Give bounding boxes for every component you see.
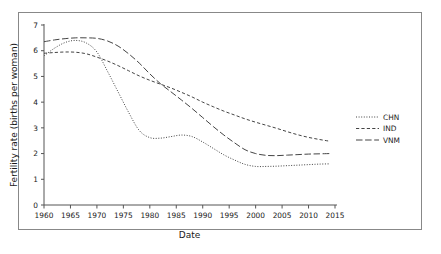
x-tick-label: 1970 (88, 211, 107, 220)
legend-label-chn: CHN (383, 113, 399, 122)
y-tick-label: 0 (33, 201, 38, 210)
x-tick-label: 1980 (140, 211, 159, 220)
series-line-ind (44, 52, 330, 141)
x-tick-label: 2010 (299, 211, 318, 220)
chart-legend: CHNINDVNM (356, 113, 400, 145)
x-tick-label: 1985 (167, 211, 186, 220)
x-tick-label: 1975 (114, 211, 133, 220)
axes: 0123456719601965197019751980198519901995… (33, 21, 344, 220)
y-tick-label: 5 (33, 72, 38, 81)
x-tick-label: 1995 (220, 211, 239, 220)
x-tick-label: 1960 (35, 211, 54, 220)
y-tick-label: 6 (33, 46, 38, 55)
legend-label-vnm: VNM (383, 136, 400, 145)
series-lines (44, 38, 330, 167)
series-line-chn (44, 40, 330, 166)
y-axis-title: Fertility rate (births per woman) (9, 43, 19, 187)
x-tick-label: 2015 (326, 211, 345, 220)
x-axis-title: Date (179, 230, 201, 240)
series-line-vnm (44, 38, 330, 156)
y-tick-label: 2 (33, 149, 38, 158)
y-tick-label: 1 (33, 175, 38, 184)
y-tick-label: 4 (33, 98, 38, 107)
x-tick-label: 2000 (246, 211, 265, 220)
x-tick-label: 1990 (193, 211, 212, 220)
line-chart: 0123456719601965197019751980198519901995… (0, 0, 441, 254)
y-tick-label: 3 (33, 124, 38, 133)
x-tick-label: 2005 (273, 211, 292, 220)
figure: 0123456719601965197019751980198519901995… (0, 0, 441, 254)
legend-label-ind: IND (383, 124, 397, 133)
x-tick-label: 1965 (61, 211, 80, 220)
y-tick-label: 7 (33, 21, 38, 30)
